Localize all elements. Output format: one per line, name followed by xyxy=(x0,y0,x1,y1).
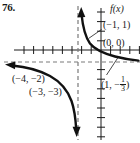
leader-line-neg1-1 xyxy=(89,30,102,39)
axis-label-fx: f(x) xyxy=(110,4,124,14)
annotation-point-1-neg-one-third: (1, −13) xyxy=(101,76,129,93)
annotation-point-0-0: (0, 0) xyxy=(103,38,125,48)
leader-line-1-neg-one-third xyxy=(107,58,119,76)
arrow-down-icon xyxy=(73,127,81,137)
figure-container: 76. xyxy=(0,0,140,143)
annotation-point-neg3-neg3: (−3, −3) xyxy=(29,87,62,97)
fraction-prefix: (1, xyxy=(101,79,114,90)
arrow-left-icon xyxy=(5,62,16,70)
annotation-point-neg1-1: (−1, 1) xyxy=(103,20,130,30)
annotation-point-neg4-neg2: (−4, −2) xyxy=(12,74,45,84)
fraction-suffix: ) xyxy=(126,79,129,90)
